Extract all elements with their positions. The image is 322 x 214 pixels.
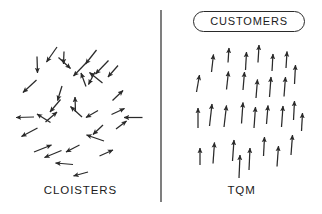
arrow-aligned <box>243 72 245 90</box>
random-arrow-field <box>16 47 143 176</box>
arrow-random <box>50 100 61 113</box>
arrow-random <box>34 145 52 152</box>
arrow-random <box>59 58 71 69</box>
arrow-aligned <box>286 52 287 69</box>
arrows-layer <box>0 0 322 214</box>
arrow-random <box>108 66 118 78</box>
arrow-aligned <box>282 106 284 127</box>
arrow-random <box>86 111 98 118</box>
arrow-aligned <box>256 80 258 99</box>
arrow-aligned <box>291 135 293 155</box>
arrow-aligned <box>197 75 200 92</box>
arrow-aligned <box>302 113 303 131</box>
arrow-random <box>74 63 87 76</box>
arrow-aligned <box>227 72 229 90</box>
arrow-random <box>113 91 124 101</box>
arrow-random <box>87 135 105 141</box>
arrow-aligned <box>246 52 247 70</box>
arrow-aligned <box>212 55 214 73</box>
arrow-aligned <box>270 77 272 97</box>
arrow-random <box>37 114 51 123</box>
customers-badge-label: CUSTOMERS <box>210 16 288 27</box>
customers-badge: CUSTOMERS <box>193 11 305 32</box>
arrow-random <box>81 73 86 87</box>
arrow-random <box>100 150 114 156</box>
arrow-aligned <box>254 107 256 128</box>
arrow-aligned <box>284 77 286 97</box>
arrow-random <box>56 163 74 165</box>
arrow-random <box>45 151 62 158</box>
arrow-random <box>64 52 65 65</box>
aligned-arrow-field <box>197 45 303 178</box>
arrow-random <box>47 47 58 62</box>
arrow-aligned <box>242 103 244 124</box>
arrow-random <box>37 57 38 74</box>
arrow-random <box>66 145 80 152</box>
caption-tqm: TQM <box>161 184 322 196</box>
arrow-random <box>86 50 97 64</box>
arrow-aligned <box>258 45 259 63</box>
arrow-random <box>93 125 103 135</box>
arrow-random <box>71 107 83 118</box>
arrow-aligned <box>213 143 215 164</box>
arrow-aligned <box>210 104 213 126</box>
arrow-aligned <box>267 106 269 125</box>
arrow-aligned <box>277 146 279 167</box>
arrow-aligned <box>224 106 227 128</box>
arrow-aligned <box>295 65 296 84</box>
arrow-random <box>46 112 58 122</box>
figure-canvas: CUSTOMERS CLOISTERS TQM <box>0 0 322 214</box>
arrow-aligned <box>264 137 265 156</box>
arrow-aligned <box>228 48 229 63</box>
arrow-random <box>23 80 37 93</box>
arrow-random <box>112 109 125 115</box>
arrow-aligned <box>233 140 235 161</box>
arrow-aligned <box>294 101 295 120</box>
arrow-random <box>75 97 76 112</box>
arrow-random <box>74 172 89 176</box>
caption-cloisters: CLOISTERS <box>0 184 161 196</box>
arrow-random <box>116 121 127 129</box>
arrow-random <box>22 128 38 137</box>
arrow-random <box>96 61 109 75</box>
arrow-aligned <box>272 54 273 71</box>
arrow-aligned <box>239 155 240 178</box>
arrow-random <box>16 117 34 118</box>
arrow-aligned <box>249 148 250 170</box>
arrow-random <box>58 86 63 101</box>
